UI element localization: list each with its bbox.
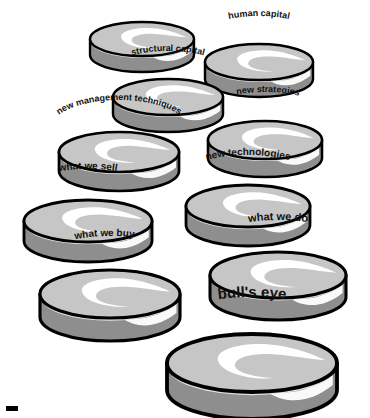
disc-label-bulls-eye: bull's eye xyxy=(217,283,288,302)
corner-artifact xyxy=(6,406,18,411)
diagram-canvas: customer capitalhuman capitalstructural … xyxy=(0,0,370,418)
concept-discs-illustration: customer capitalhuman capitalstructural … xyxy=(0,0,370,418)
disc-label-text: bull's eye xyxy=(217,283,288,302)
disc-what-we-buy[interactable] xyxy=(40,270,180,341)
disc-bulls-eye[interactable] xyxy=(167,334,337,418)
